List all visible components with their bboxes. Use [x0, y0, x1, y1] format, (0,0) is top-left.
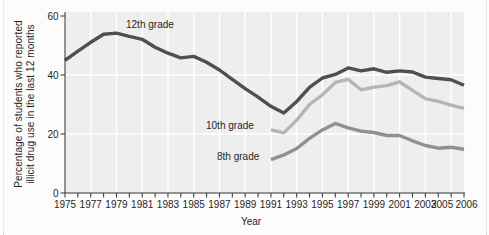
x-tick-label: 1981 [131, 199, 154, 210]
y-axis-title-line1: Percentage of students who reported [13, 4, 25, 204]
y-axis-title: Percentage of students who reported illi… [13, 4, 37, 204]
x-tick-label: 1991 [260, 199, 283, 210]
x-tick-label: 2001 [389, 199, 412, 210]
x-tick-label: 1989 [234, 199, 257, 210]
x-tick-label: 2006 [455, 199, 478, 210]
series-label-8th-grade: 8th grade [217, 151, 259, 162]
x-tick-label: 1987 [208, 199, 231, 210]
x-tick-label: 1993 [286, 199, 309, 210]
x-tick-label: 1975 [54, 199, 77, 210]
x-tick-label: 1995 [311, 199, 334, 210]
x-tick-label: 2005 [431, 199, 454, 210]
y-tick-label: 20 [47, 129, 59, 140]
series-label-10th-grade: 10th grade [206, 120, 254, 131]
line-chart: 1975197719791981198319851987198919911993… [0, 0, 489, 235]
x-tick-label: 1997 [337, 199, 360, 210]
y-axis-title-line2: illicit drug use in the last 12 months [25, 4, 37, 204]
x-tick-label: 1979 [105, 199, 128, 210]
x-axis-title: Year [226, 216, 276, 227]
x-tick-label: 1983 [157, 199, 180, 210]
y-tick-label: 0 [53, 188, 59, 199]
x-tick-label: 1985 [183, 199, 206, 210]
figure-page: 1975197719791981198319851987198919911993… [0, 0, 489, 235]
series-label-12th-grade: 12th grade [126, 19, 174, 30]
x-tick-label: 1977 [80, 199, 103, 210]
y-tick-label: 40 [47, 70, 59, 81]
x-tick-label: 1999 [363, 199, 386, 210]
y-tick-label: 60 [47, 11, 59, 22]
